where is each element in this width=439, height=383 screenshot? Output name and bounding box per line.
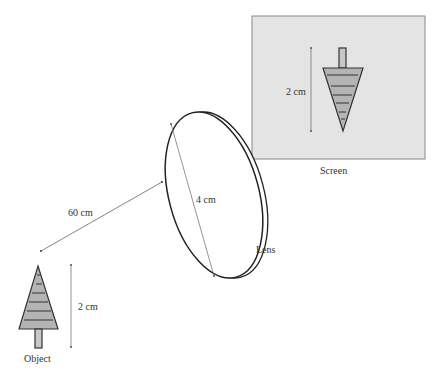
lens-diameter-label: 4 cm (196, 194, 216, 205)
distance-arrow: 60 cm (40, 181, 163, 252)
object-height-label: 2 cm (78, 301, 98, 312)
lens-label: Lens (256, 244, 276, 255)
object-label: Object (24, 353, 51, 364)
screen-height-label: 2 cm (286, 86, 306, 97)
distance-label: 60 cm (68, 207, 93, 218)
screen-label: Screen (320, 165, 347, 176)
screen: 2 cm Screen (252, 16, 425, 176)
object: 2 cm Object (19, 264, 98, 364)
tree-object (19, 266, 58, 348)
optics-diagram: 2 cm Screen 4 cm Lens 60 cm (0, 0, 439, 383)
